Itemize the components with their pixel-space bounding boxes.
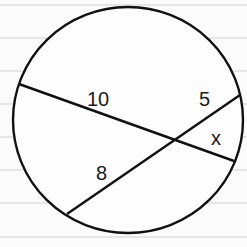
circle <box>13 7 243 233</box>
diagram-canvas: 10 5 8 x <box>0 0 247 247</box>
label-10: 10 <box>87 88 109 110</box>
chord-diagram: 10 5 8 x <box>0 0 247 247</box>
label-8: 8 <box>96 162 107 184</box>
label-5: 5 <box>199 88 210 110</box>
label-x: x <box>211 127 221 149</box>
